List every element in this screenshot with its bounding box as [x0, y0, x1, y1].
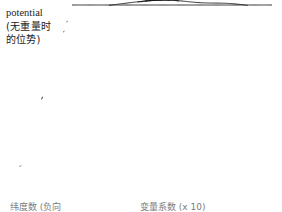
potential-annotation: potential (无重量时 的位势)	[6, 6, 72, 47]
potential-label-line-3: 的位势)	[6, 33, 72, 47]
mesh-row-line	[42, 97, 43, 100]
y-axis-caption: 变量系数 (x 10)	[140, 202, 206, 212]
potential-label-line-1: potential	[6, 6, 72, 20]
potential-label-line-2: (无重量时	[6, 20, 72, 34]
x-axis-caption: 纬度数 (负向	[10, 202, 61, 212]
figure-canvas: potential (无重量时 的位势) 纬度数 (负向 变量系数 (x 10)	[0, 0, 282, 212]
mesh-row-line	[20, 166, 21, 167]
mesh-row-line	[149, 0, 162, 1]
